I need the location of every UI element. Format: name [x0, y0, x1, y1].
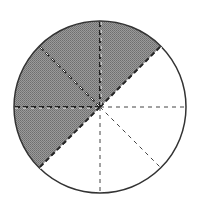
fraction-circle-diagram	[0, 0, 200, 209]
divider-line	[100, 107, 161, 168]
